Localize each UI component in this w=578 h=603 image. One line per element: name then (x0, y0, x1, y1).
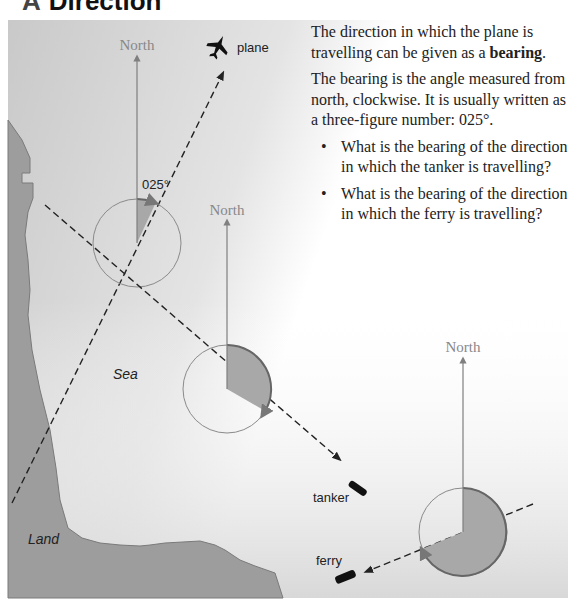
plane-label: plane (237, 40, 269, 55)
angle-label: 025° (142, 177, 169, 192)
paragraph-bearing-definition: The bearing is the angle measured from n… (311, 69, 576, 131)
paragraph-bearing-intro: The direction in which the plane is trav… (311, 22, 576, 63)
north-label-plane: North (120, 37, 155, 53)
tanker-label: tanker (313, 490, 350, 505)
land-label: Land (28, 531, 60, 547)
sea-label: Sea (113, 366, 138, 382)
bearing-term: bearing (490, 44, 542, 61)
north-label-tanker: North (210, 202, 245, 218)
paragraph-text-end: . (542, 44, 546, 61)
question-list: What is the bearing of the direction in … (311, 137, 576, 225)
question-ferry: What is the bearing of the direction in … (341, 184, 576, 225)
explanation-panel: The direction in which the plane is trav… (311, 22, 576, 231)
ferry-label: ferry (316, 553, 343, 568)
question-tanker: What is the bearing of the direction in … (341, 137, 576, 178)
north-label-ferry: North (446, 339, 481, 355)
